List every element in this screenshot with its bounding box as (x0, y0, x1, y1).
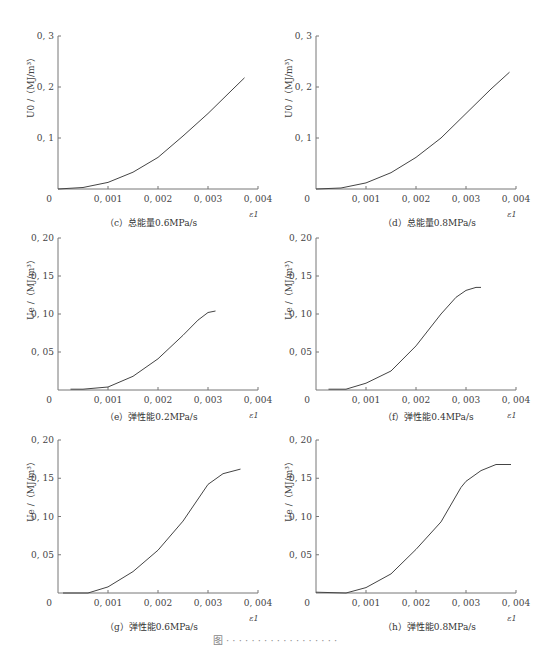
chart-panel-h: 0, 050, 100, 150, 2000, 0010, 0020, 0030… (0, 0, 550, 657)
y-tick-label: 0, 05 (289, 550, 312, 560)
x-tick-label: 0, 004 (502, 598, 531, 608)
x-axis-label: ε1 (507, 614, 516, 623)
y-tick-label: 0, 20 (289, 435, 312, 445)
x-tick-label: 0, 002 (402, 598, 431, 608)
figure-caption: 图 · · · · · · · · · · · · · · · · · · (0, 632, 550, 647)
x-tick-label: 0, 001 (352, 598, 381, 608)
x-tick-label: 0 (304, 598, 310, 608)
x-tick-label: 0, 003 (452, 598, 481, 608)
y-axis-label: Ue /（MJ/m³） (282, 457, 295, 522)
chart-h: 0, 050, 100, 150, 2000, 0010, 0020, 0030… (0, 0, 550, 657)
data-series-line (316, 465, 511, 594)
